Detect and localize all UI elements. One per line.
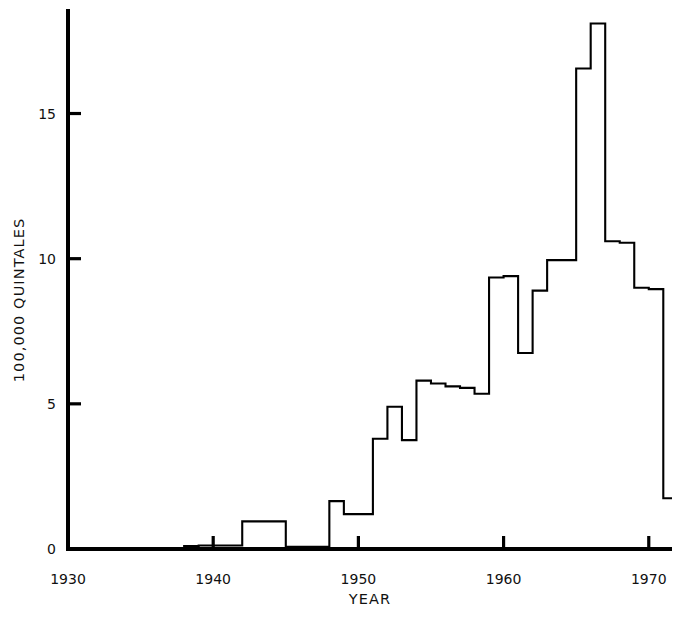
axis-lines xyxy=(68,9,672,549)
x-tick-label: 1940 xyxy=(195,571,231,587)
x-tick-label: 1970 xyxy=(631,571,667,587)
y-tick-label: 15 xyxy=(38,106,56,122)
y-axis-title: 100,000 QUINTALES xyxy=(11,218,27,383)
data-series-line xyxy=(68,24,672,549)
y-tick-label: 0 xyxy=(47,541,56,557)
x-tick-label: 1950 xyxy=(341,571,377,587)
x-tick-label: 1930 xyxy=(50,571,86,587)
y-axis-tick-labels: 051015 xyxy=(38,106,56,557)
chart-container: 051015 19301940195019601970 YEAR 100,000… xyxy=(0,0,686,625)
x-axis-title: YEAR xyxy=(348,591,391,607)
x-tick-label: 1960 xyxy=(486,571,522,587)
x-axis-tick-labels: 19301940195019601970 xyxy=(50,571,666,587)
y-tick-label: 5 xyxy=(47,396,56,412)
step-line-chart: 051015 19301940195019601970 YEAR 100,000… xyxy=(0,0,686,625)
y-tick-label: 10 xyxy=(38,251,56,267)
